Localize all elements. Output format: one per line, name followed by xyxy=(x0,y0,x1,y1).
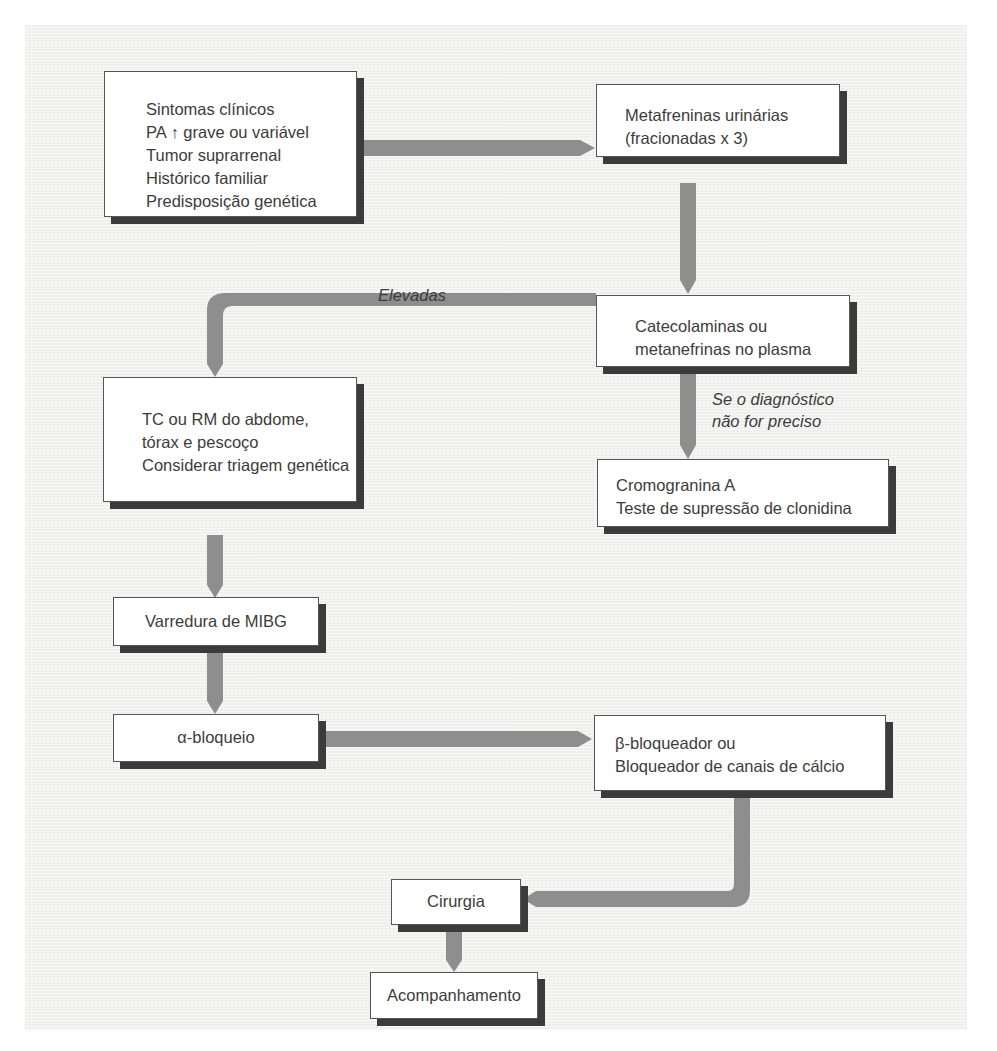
node-sintomas-line-2: PA ↑ grave ou variável xyxy=(146,121,356,144)
edge-label-nao-preciso: Se o diagnóstico não for preciso xyxy=(712,388,834,432)
node-catecolaminas-line-2: metanefrinas no plasma xyxy=(635,338,849,361)
node-beta-line-2: Bloqueador de canais de cálcio xyxy=(615,755,885,778)
node-imagem-line-1: TC ou RM do abdome, xyxy=(142,408,356,431)
node-sintomas-line-4: Histórico familiar xyxy=(146,167,356,190)
arrow-beta-to-cirurgia xyxy=(523,792,750,907)
node-acompanhamento: Acompanhamento xyxy=(370,972,538,1019)
node-beta-line-1: β-bloqueador ou xyxy=(615,732,885,755)
node-sintomas-line-3: Tumor suprarrenal xyxy=(146,144,356,167)
node-sintomas-line-1: Sintomas clínicos xyxy=(146,98,356,121)
arrow-catecolaminas-to-cromogranina xyxy=(680,372,696,459)
node-mibg-line-1: Varredura de MIBG xyxy=(114,610,318,633)
arrow-mibg-to-alfa xyxy=(207,646,223,714)
arrow-metanefrinas-to-catecolaminas xyxy=(680,183,696,294)
node-alfa-line-1: α-bloqueio xyxy=(114,726,318,749)
arrow-cirurgia-to-acompanhamento xyxy=(446,930,462,972)
node-imagem-line-3: Considerar triagem genética xyxy=(142,454,356,477)
node-sintomas: Sintomas clínicos PA ↑ grave ou variável… xyxy=(104,71,357,217)
edge-label-nao-preciso-line-1: Se o diagnóstico xyxy=(712,388,834,410)
arrow-imagem-to-mibg xyxy=(207,535,223,598)
arrow-inicio-to-metanefrinas xyxy=(357,140,595,156)
node-metanefrinas-line-2: (fracionadas x 3) xyxy=(625,127,839,150)
node-sintomas-line-5: Predisposição genética xyxy=(146,190,356,213)
node-beta-bloqueador: β-bloqueador ou Bloqueador de canais de … xyxy=(594,715,886,791)
node-cirurgia-line-1: Cirurgia xyxy=(392,890,520,913)
node-mibg: Varredura de MIBG xyxy=(113,597,319,646)
node-metanefrinas-urinarias: Metafreninas urinárias (fracionadas x 3) xyxy=(596,84,840,157)
node-cromogranina: Cromogranina A Teste de supressão de clo… xyxy=(597,459,889,527)
edge-label-elevadas: Elevadas xyxy=(378,284,446,306)
node-cromogranina-line-1: Cromogranina A xyxy=(616,474,888,497)
arrow-alfa-to-beta xyxy=(320,731,592,747)
node-acompanhamento-line-1: Acompanhamento xyxy=(371,984,537,1007)
node-imagem: TC ou RM do abdome, tórax e pescoço Cons… xyxy=(103,377,357,502)
edge-label-nao-preciso-line-2: não for preciso xyxy=(712,410,834,432)
node-imagem-line-2: tórax e pescoço xyxy=(142,431,356,454)
node-metanefrinas-line-1: Metafreninas urinárias xyxy=(625,104,839,127)
node-catecolaminas-line-1: Catecolaminas ou xyxy=(635,315,849,338)
node-alfa-bloqueio: α-bloqueio xyxy=(113,714,319,762)
node-catecolaminas-plasma: Catecolaminas ou metanefrinas no plasma xyxy=(596,295,850,367)
node-cromogranina-line-2: Teste de supressão de clonidina xyxy=(616,497,888,520)
node-cirurgia: Cirurgia xyxy=(391,879,521,925)
